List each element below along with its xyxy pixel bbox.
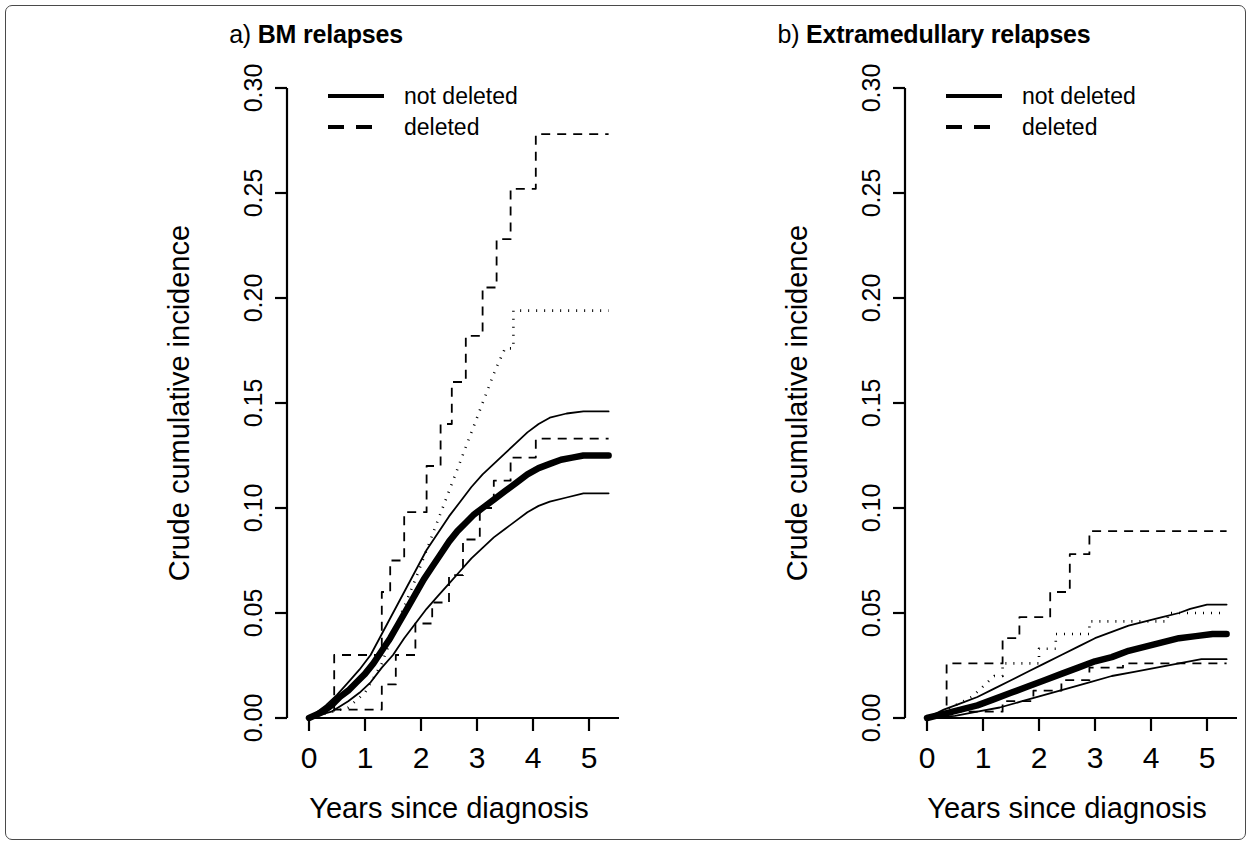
x-tick-label: 3 <box>469 741 486 774</box>
x-tick-label: 4 <box>525 741 542 774</box>
curve-deleted-upper-95-ci- <box>309 311 609 718</box>
curve-deleted-estimate- <box>927 531 1227 718</box>
y-tick-label: 0.05 <box>857 589 885 638</box>
figure-frame: a) BM relapses not deleteddeleted0.000.0… <box>5 5 1246 840</box>
panel-extramedullary-relapses: b) Extramedullary relapses not deletedde… <box>624 6 1244 841</box>
x-tick-label: 2 <box>1031 741 1048 774</box>
legend-label: not deleted <box>1022 83 1136 109</box>
panel-bm-relapses: a) BM relapses not deleteddeleted0.000.0… <box>6 6 626 841</box>
y-tick-label: 0.15 <box>857 379 885 428</box>
panel-b-plot: not deleteddeleted0.000.050.100.150.200.… <box>624 6 1244 841</box>
curve-not-deleted-estimate- <box>309 456 609 719</box>
x-tick-label: 1 <box>357 741 374 774</box>
legend-label: deleted <box>404 114 479 140</box>
x-tick-label: 4 <box>1143 741 1160 774</box>
x-tick-label: 5 <box>581 741 598 774</box>
y-tick-label: 0.15 <box>239 379 267 428</box>
y-tick-label: 0.25 <box>239 169 267 218</box>
y-tick-label: 0.25 <box>857 169 885 218</box>
y-axis-title: Crude cumulative incidence <box>781 225 813 581</box>
y-tick-label: 0.10 <box>857 484 885 533</box>
curve-deleted-estimate- <box>309 134 609 718</box>
legend-label: deleted <box>1022 114 1097 140</box>
curve-not-deleted-upper-95-ci- <box>927 605 1227 718</box>
y-tick-label: 0.05 <box>239 589 267 638</box>
x-tick-label: 0 <box>301 741 318 774</box>
y-tick-label: 0.30 <box>857 64 885 113</box>
y-tick-label: 0.10 <box>239 484 267 533</box>
x-tick-label: 5 <box>1199 741 1216 774</box>
x-tick-label: 1 <box>975 741 992 774</box>
x-tick-label: 0 <box>919 741 936 774</box>
y-axis-title: Crude cumulative incidence <box>163 225 195 581</box>
y-tick-label: 0.20 <box>857 274 885 323</box>
panel-a-plot: not deleteddeleted0.000.050.100.150.200.… <box>6 6 626 841</box>
x-tick-label: 3 <box>1087 741 1104 774</box>
y-tick-label: 0.30 <box>239 64 267 113</box>
x-axis-title: Years since diagnosis <box>309 792 588 824</box>
legend-label: not deleted <box>404 83 518 109</box>
y-tick-label: 0.20 <box>239 274 267 323</box>
x-tick-label: 2 <box>413 741 430 774</box>
y-tick-label: 0.00 <box>239 694 267 743</box>
y-tick-label: 0.00 <box>857 694 885 743</box>
x-axis-title: Years since diagnosis <box>927 792 1206 824</box>
